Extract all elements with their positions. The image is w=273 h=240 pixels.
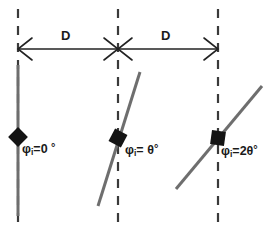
angle-label-sample-theta: φi= θ°	[125, 144, 158, 157]
dimension-label-right: D	[161, 29, 170, 42]
phi-subscript-theta: i	[134, 148, 136, 158]
phi-symbol-theta: φ	[125, 143, 134, 157]
angle-label-sample-0: φi=0 °	[22, 143, 55, 156]
angle-label-sample-2theta: φi=2θ°	[221, 145, 258, 158]
phi-value-theta: θ	[147, 143, 154, 157]
dimension-arrow-group	[18, 38, 218, 60]
phi-equals-2theta: =	[232, 144, 239, 158]
phi-equals-0: =	[33, 142, 40, 156]
phi-value-2theta: 2θ	[240, 144, 254, 158]
phi-subscript-2theta: i	[230, 149, 232, 159]
phi-degree-0: °	[51, 141, 55, 153]
phi-subscript-0: i	[31, 147, 33, 157]
diagram-canvas	[0, 0, 273, 240]
orientation-diagram: D D φi=0 ° φi= θ° φi=2θ°	[0, 0, 273, 240]
dimension-label-left: D	[61, 29, 70, 42]
phi-degree-2theta: °	[253, 143, 257, 155]
phi-degree-theta: °	[154, 142, 158, 154]
phi-value-0: 0	[41, 142, 48, 156]
phi-symbol-0: φ	[22, 142, 31, 156]
phi-symbol-2theta: φ	[221, 144, 230, 158]
phi-equals-theta: =	[136, 143, 143, 157]
reference-lines-group	[18, 9, 218, 229]
